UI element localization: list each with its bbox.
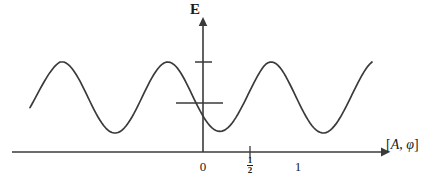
bracket-close-glyph: ]	[414, 137, 419, 152]
fraction-one-half: 12	[247, 156, 254, 176]
x-axis-label: [A, φ]	[386, 138, 419, 152]
y-axis-arrowhead	[199, 17, 208, 26]
y-axis-label: E	[190, 2, 200, 17]
fraction-numerator: 1	[247, 156, 254, 165]
x-tick-label-half: 12	[242, 156, 258, 176]
phase-symbol: φ	[406, 137, 414, 152]
potential-energy-figure: E [A, φ] 0 12 1	[0, 0, 434, 188]
x-tick-label-one: 1	[290, 160, 306, 173]
fraction-denominator: 2	[247, 165, 254, 175]
amplitude-symbol: A	[391, 137, 400, 152]
potential-energy-curve	[30, 62, 372, 133]
plot-canvas	[0, 0, 434, 188]
x-tick-label-zero: 0	[195, 160, 211, 173]
